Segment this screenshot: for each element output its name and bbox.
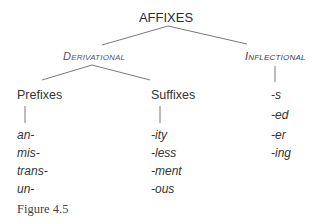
suffix-item: -ous [151,182,174,196]
prefix-item: an- [17,128,34,142]
prefix-item: un- [17,182,34,196]
suffix-item: -ity [151,128,167,142]
node-suffixes: Suffixes [151,88,195,102]
edge-affixes-inflectional [168,26,247,44]
node-derivational: Derivational [63,50,125,62]
edge-derivational-suffixes [92,65,150,80]
prefix-item: mis- [17,146,40,160]
node-inflectional: Inflectional [245,50,306,62]
node-prefixes: Prefixes [17,88,62,102]
suffix-item: -ment [151,164,182,178]
prefix-item: trans- [17,164,48,178]
inflection-item: -er [271,128,286,142]
inflection-item: -ed [271,108,288,122]
inflection-item: -s [271,88,281,102]
figure-caption: Figure 4.5 [17,202,68,217]
root-node-affixes: AFFIXES [0,10,332,25]
edge-affixes-derivational [102,26,168,45]
suffix-item: -less [151,146,176,160]
edge-derivational-prefixes [42,65,92,80]
inflection-item: -ing [271,146,291,160]
